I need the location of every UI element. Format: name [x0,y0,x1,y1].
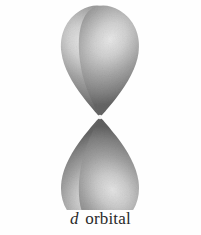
d-orbital-figure: d orbital [0,0,201,235]
upper-right-lobe [41,116,160,210]
orbital-label: orbital [85,209,131,228]
orbital-nucleus-point [98,115,102,119]
figure-caption: d orbital [0,208,201,230]
lower-right-lobe [41,0,160,118]
orbital-symbol: d [70,209,85,228]
orbital-illustration [0,0,201,210]
